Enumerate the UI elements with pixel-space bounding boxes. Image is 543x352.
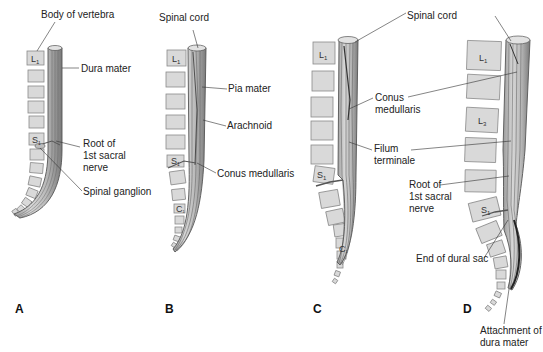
panel-letter-c: C <box>313 302 322 316</box>
panel-a-drawing: L1 S1 <box>12 22 82 218</box>
label-root-of-1st-sacral-nerve-d: Root of 1st sacral nerve <box>409 179 452 215</box>
label-dura-mater: Dura mater <box>81 63 131 75</box>
label-arachnoid: Arachnoid <box>227 120 272 132</box>
panel-a-cord-top <box>48 46 62 51</box>
panel-letter-a: A <box>15 302 24 316</box>
label-attachment-of-dura-mater: Attachment of dura mater <box>480 325 542 349</box>
panel-d-drawing: L1 L3 S1 <box>408 16 530 324</box>
panel-c-spinal-cord-leader <box>355 13 406 42</box>
panel-letter-d: D <box>463 302 472 316</box>
label-conus-medullaris-c: Conus medullaris <box>375 92 421 116</box>
label-spinal-cord-d: Spinal cord <box>407 10 457 22</box>
panel-letter-b: B <box>165 302 174 316</box>
label-conus-medullaris-b: Conus medullaris <box>217 168 294 180</box>
label-spinal-cord-b: Spinal cord <box>159 12 209 24</box>
spinal-cord-development-figure: L1 S1 <box>0 0 543 352</box>
label-pia-mater: Pia mater <box>228 83 271 95</box>
label-spinal-ganglion: Spinal ganglion <box>83 186 151 198</box>
label-filum-terminale: Filum terminale <box>374 143 415 167</box>
panel-a-vertebrae <box>12 51 44 216</box>
label-root-of-1st-sacral-nerve-a: Root of 1st sacral nerve <box>83 138 126 174</box>
panel-b-drawing: L1 S1 C1 <box>166 30 227 252</box>
label-end-of-dural-sac: End of dural sac <box>416 253 488 265</box>
label-body-of-vertebra: Body of vertebra <box>41 9 114 21</box>
